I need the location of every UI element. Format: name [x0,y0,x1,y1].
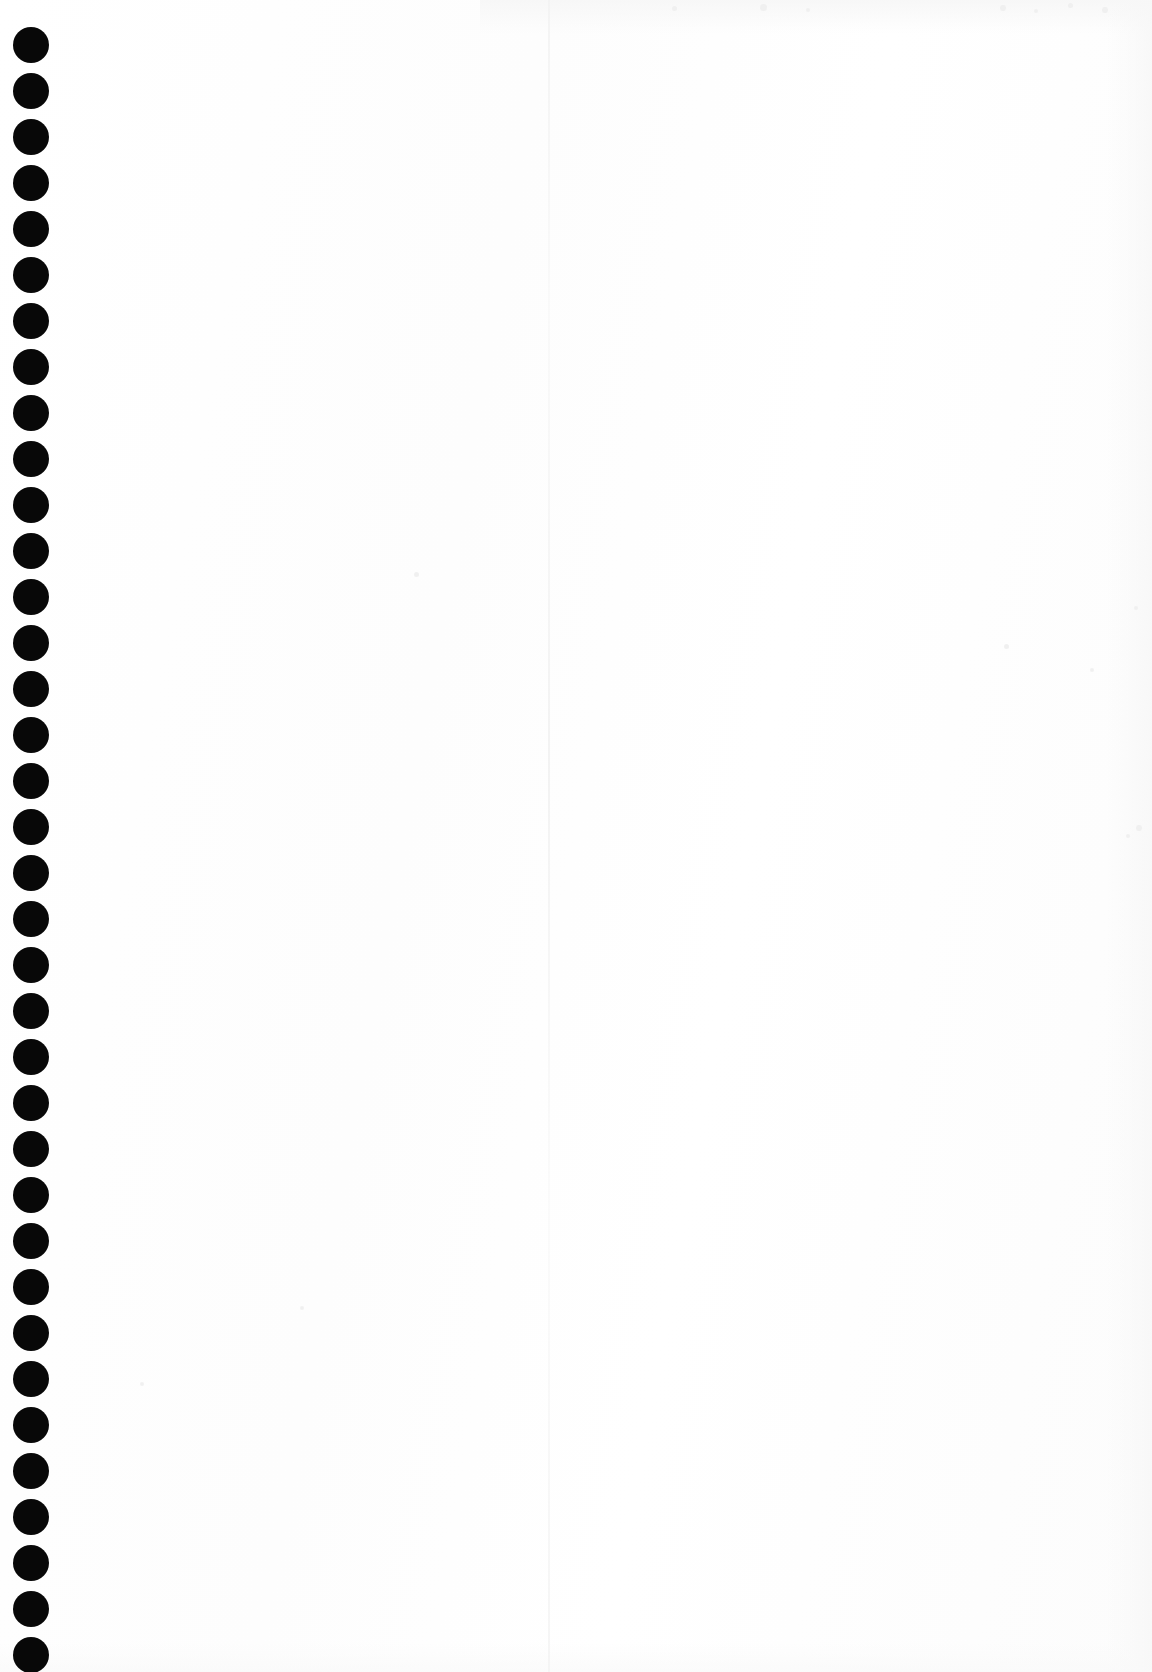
scan-speckle [1034,9,1038,13]
binding-hole [13,901,49,937]
binding-hole [13,947,49,983]
binding-hole [13,763,49,799]
binding-hole [13,671,49,707]
paper-shade-top [480,0,1152,34]
binding-hole [13,1131,49,1167]
binding-hole [13,303,49,339]
binding-hole [13,349,49,385]
scan-speckle [1000,5,1006,11]
binding-hole [13,1085,49,1121]
binding-hole [13,119,49,155]
scan-speckle [760,4,767,11]
binding-hole [13,441,49,477]
scanned-page [0,0,1152,1672]
binding-hole [13,165,49,201]
binding-hole [13,1637,49,1672]
binding-hole [13,1453,49,1489]
binding-hole [13,855,49,891]
binding-hole [13,625,49,661]
page-fold-line [548,0,550,1672]
binding-hole [13,73,49,109]
binding-hole [13,533,49,569]
scan-speckle [1136,825,1142,831]
binding-hole [13,1407,49,1443]
binding-hole [13,1591,49,1627]
binding-hole [13,1499,49,1535]
binding-hole [13,1223,49,1259]
scan-speckle [414,572,419,577]
scan-speckle [1102,7,1108,13]
binding-hole [13,1315,49,1351]
binding-hole [13,1361,49,1397]
binding-hole [13,257,49,293]
paper-surface [0,0,1152,1672]
binding-hole [13,211,49,247]
binding-hole [13,1269,49,1305]
binding-hole [13,809,49,845]
binding-hole [13,579,49,615]
spiral-binding-holes [0,0,62,1672]
binding-hole [13,27,49,63]
binding-hole [13,1039,49,1075]
scan-speckle [1134,606,1138,610]
binding-hole [13,1177,49,1213]
binding-hole [13,717,49,753]
scan-speckle [1126,834,1130,838]
paper-shade-right [1106,0,1152,1672]
binding-hole [13,487,49,523]
scan-speckle [1004,644,1009,649]
scan-speckle [1068,3,1073,8]
binding-hole [13,993,49,1029]
binding-hole [13,395,49,431]
binding-hole [13,1545,49,1581]
paper-shade-bottom [0,1642,1152,1672]
scan-speckle [140,1382,144,1386]
scan-speckle [672,6,677,11]
scan-speckle [806,8,810,12]
scan-speckle [1090,668,1094,672]
scan-speckle [300,1306,304,1310]
